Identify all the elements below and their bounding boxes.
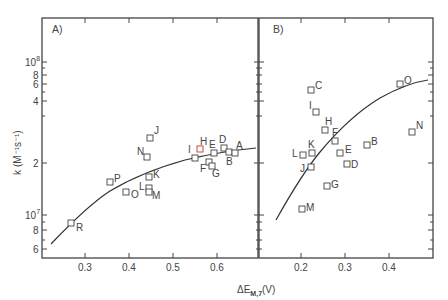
- xtick-b-0.3: 0.3: [338, 262, 352, 273]
- svg-text:E: E: [345, 144, 352, 155]
- svg-text:O: O: [131, 189, 139, 200]
- svg-text:O: O: [404, 75, 412, 86]
- svg-text:N: N: [416, 120, 423, 131]
- svg-text:D: D: [351, 159, 358, 170]
- svg-text:E: E: [209, 139, 216, 150]
- svg-text:G: G: [212, 168, 220, 179]
- xtick-a-0.3: 0.3: [78, 262, 92, 273]
- svg-text:R: R: [76, 222, 83, 233]
- svg-text:B: B: [371, 136, 378, 147]
- panel-b-label: B): [273, 23, 284, 35]
- svg-text:F: F: [332, 127, 338, 138]
- ytick-6e6: 6: [33, 244, 39, 255]
- svg-text:B: B: [226, 156, 233, 167]
- fit-curve-b: [276, 80, 428, 220]
- ytick-1e7: 107: [25, 208, 40, 221]
- points-b: C O I H F K L E B N J D G M: [292, 75, 423, 213]
- x-axis-label: ΔEM,7(V): [237, 284, 275, 298]
- svg-text:K: K: [308, 139, 315, 150]
- ytick-1e8: 108: [25, 55, 40, 68]
- ytick-2e7: 2: [33, 158, 39, 169]
- svg-text:G: G: [331, 179, 339, 190]
- xtick-a-0.6: 0.6: [210, 262, 224, 273]
- svg-text:I: I: [309, 100, 312, 111]
- svg-text:K: K: [153, 169, 160, 180]
- xtick-b-0.4: 0.4: [382, 262, 396, 273]
- svg-text:L: L: [139, 181, 145, 192]
- svg-text:C: C: [315, 80, 322, 91]
- xtick-a-0.4: 0.4: [122, 262, 136, 273]
- ytick-8e6: 8: [33, 225, 39, 236]
- xtick-a-0.5: 0.5: [166, 262, 180, 273]
- ytick-4e7: 4: [33, 96, 39, 107]
- svg-text:D: D: [219, 134, 226, 145]
- figure: A) 108 8 6 4 2 107 8 6 k(M⁻¹s⁻: [0, 0, 448, 300]
- svg-text:N: N: [137, 146, 144, 157]
- svg-text:J: J: [300, 163, 305, 174]
- svg-text:M: M: [152, 190, 160, 201]
- ytick-6e7: 6: [33, 79, 39, 90]
- points-a: R P O N J K L M I H F G E D B A: [68, 125, 243, 233]
- panel-b-frame: [259, 18, 433, 258]
- svg-text:M: M: [306, 202, 314, 213]
- y-axis-label: k(M⁻¹s⁻¹): [12, 130, 23, 175]
- svg-text:L: L: [292, 148, 298, 159]
- svg-text:J: J: [154, 125, 159, 136]
- svg-text:I: I: [188, 144, 191, 155]
- svg-text:A: A: [236, 140, 243, 151]
- panel-b: B) 0.2: [254, 18, 433, 273]
- svg-text:F: F: [200, 163, 206, 174]
- xtick-b-0.2: 0.2: [294, 262, 308, 273]
- panel-a-label: A): [52, 23, 63, 35]
- svg-text:H: H: [325, 116, 332, 127]
- panel-a: A) 108 8 6 4 2 107 8 6 k(M⁻¹s⁻: [12, 18, 258, 273]
- svg-text:H: H: [200, 136, 207, 147]
- svg-text:P: P: [114, 173, 121, 184]
